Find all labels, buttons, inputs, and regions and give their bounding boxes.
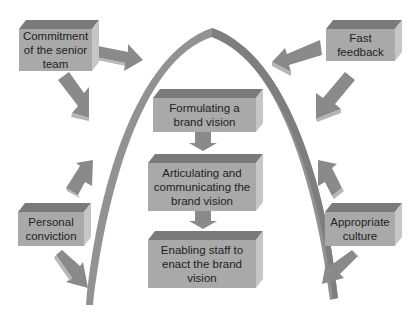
arrow-articulating-to-enabling (189, 210, 217, 229)
box-personal-conviction: Personal conviction (18, 212, 84, 246)
box-appropriate-culture: Appropriate culture (325, 212, 395, 246)
box-fast-feedback: Fast feedback (326, 29, 395, 61)
box-appropriate-culture-label: Appropriate culture (327, 215, 393, 243)
box-formulating-label: Formulating a brand vision (155, 101, 254, 129)
box-commitment: Commitment of the senior team (19, 29, 92, 71)
arrow-feedback-to-arch (272, 40, 322, 76)
box-articulating: Articulating and communicating the brand… (148, 163, 256, 211)
arrow-formulating-to-articulating (189, 132, 217, 151)
box-commitment-label: Commitment of the senior team (21, 29, 90, 71)
box-personal-conviction-label: Personal conviction (20, 215, 82, 243)
box-formulating: Formulating a brand vision (153, 98, 256, 132)
arrow-feedback-down (316, 72, 355, 122)
box-fast-feedback-label: Fast feedback (328, 31, 393, 59)
arrow-commitment-to-arch (95, 44, 143, 71)
arrow-conviction-up (66, 160, 93, 198)
box-enabling: Enabling staff to enact the brand vision (148, 240, 256, 288)
box-enabling-label: Enabling staff to enact the brand vision (150, 243, 254, 285)
arrow-commitment-down (58, 72, 89, 121)
box-articulating-label: Articulating and communicating the brand… (150, 166, 254, 208)
arrow-culture-up (318, 160, 344, 199)
arrow-conviction-down (54, 250, 88, 288)
